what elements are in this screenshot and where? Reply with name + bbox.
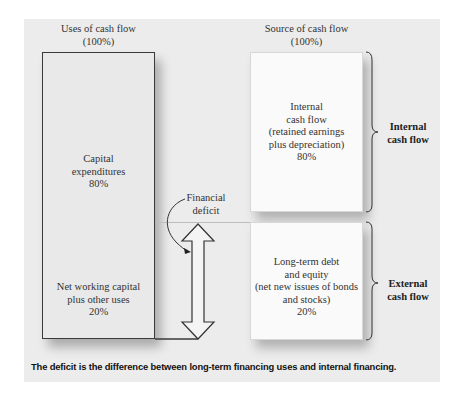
double-arrow-icon [182, 224, 214, 339]
internal-brace-icon [366, 52, 378, 212]
external-brace-icon [366, 222, 378, 340]
diagram-graphics [0, 0, 459, 400]
figure-caption: The deficit is the difference between lo… [31, 361, 396, 372]
curved-pointer-arrow-icon [167, 199, 191, 254]
